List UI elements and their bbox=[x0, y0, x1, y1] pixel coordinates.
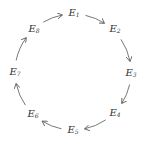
node-e7: E7 bbox=[9, 67, 20, 77]
node-e2: E2 bbox=[109, 24, 120, 34]
node-e4: E4 bbox=[109, 108, 120, 118]
edge-arrow-e2-e3 bbox=[121, 39, 130, 61]
edge-arrow-e3-e4 bbox=[122, 85, 130, 104]
edge-arrow-e6-e7 bbox=[16, 84, 25, 106]
node-e1: E1 bbox=[68, 8, 79, 18]
edge-arrow-e1-e2 bbox=[85, 15, 104, 23]
edge-arrow-e4-e5 bbox=[85, 120, 106, 129]
edge-arrow-e7-e8 bbox=[16, 38, 26, 61]
node-e6-sub: 6 bbox=[35, 112, 39, 119]
node-e5-sub: 5 bbox=[75, 128, 79, 135]
node-e6: E6 bbox=[27, 109, 38, 119]
node-e3: E3 bbox=[125, 68, 136, 78]
node-e7-sub: 7 bbox=[17, 70, 21, 77]
node-e1-sub: 1 bbox=[76, 11, 80, 18]
node-e3-sub: 3 bbox=[133, 71, 137, 78]
node-e4-sub: 4 bbox=[117, 111, 121, 118]
cycle-diagram: E1 E2 E3 E4 E5 E6 E7 E8 bbox=[0, 0, 145, 146]
node-e8-sub: 8 bbox=[36, 27, 40, 34]
edge-arrow-e8-e1 bbox=[43, 15, 62, 22]
node-e2-sub: 2 bbox=[117, 27, 121, 34]
node-e5: E5 bbox=[67, 125, 78, 135]
edge-arrow-e5-e6 bbox=[42, 121, 61, 129]
node-e8: E8 bbox=[28, 24, 39, 34]
